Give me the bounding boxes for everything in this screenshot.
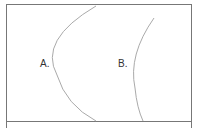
label-b: B. (118, 58, 127, 69)
arc-a (52, 6, 96, 121)
arc-b (134, 18, 154, 121)
label-a: A. (40, 58, 49, 69)
outer-frame (7, 5, 192, 129)
diagram-canvas (0, 0, 197, 128)
